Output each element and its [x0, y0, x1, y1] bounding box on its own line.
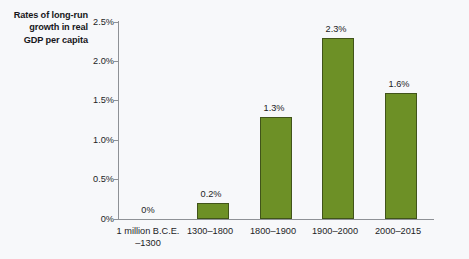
bar-chart-figure: Rates of long-run growth in real GDP per…	[0, 0, 469, 259]
bar-value-1800-1900: 1.3%	[244, 104, 304, 113]
chart-title-line-3: GDP per capita	[2, 34, 88, 46]
bar-1800-1900[interactable]	[260, 117, 292, 219]
y-tick-mark-0	[114, 219, 119, 220]
x-label-line-1: 2000–2015	[362, 226, 434, 238]
x-label-2000-2015: 2000–2015	[362, 226, 434, 238]
bar-value-1-million-bce-1300: 0%	[118, 206, 178, 215]
x-label-line-1: 1300–1800	[174, 226, 246, 238]
bar-value-1300-1800: 0.2%	[181, 190, 241, 199]
x-label-1900-2000: 1900–2000	[299, 226, 371, 238]
chart-title: Rates of long-run growth in real GDP per…	[2, 9, 88, 46]
y-tick-label-0: 0%	[70, 215, 114, 224]
bar-1900-2000[interactable]	[322, 38, 354, 219]
bar-1300-1800[interactable]	[197, 203, 229, 219]
x-label-line-2: –1300	[104, 238, 192, 250]
bar-2000-2015[interactable]	[385, 93, 417, 219]
y-tick-label-2.0: 2.0%	[70, 57, 114, 66]
bar-value-1900-2000: 2.3%	[306, 25, 366, 34]
y-tick-label-1.0: 1.0%	[70, 136, 114, 145]
x-axis-line	[118, 219, 434, 220]
y-tick-label-1.5: 1.5%	[70, 96, 114, 105]
plot-area	[119, 22, 433, 219]
y-tick-label-2.5: 2.5%	[70, 18, 114, 27]
x-label-1300-1800: 1300–1800	[174, 226, 246, 238]
x-label-line-1: 1900–2000	[299, 226, 371, 238]
bar-value-2000-2015: 1.6%	[369, 80, 429, 89]
y-tick-label-0.5: 0.5%	[70, 175, 114, 184]
